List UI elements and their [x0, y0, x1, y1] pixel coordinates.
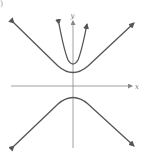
- y-axis-label: y: [70, 12, 76, 20]
- panel-label: ): [0, 0, 3, 8]
- graph-figure: ) x y: [0, 0, 147, 161]
- hyperbola-upper-branch: [14, 23, 134, 73]
- hyperbola-lower-branch: [14, 98, 134, 147]
- x-axis-label: x: [135, 83, 139, 91]
